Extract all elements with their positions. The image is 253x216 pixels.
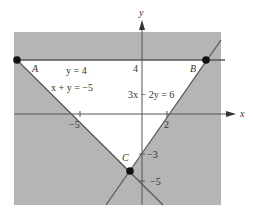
label-3x-minus-2y: 3x − 2y = 6 [128, 89, 174, 100]
point-a [13, 56, 21, 64]
label-y-equals-4: y = 4 [66, 65, 87, 76]
x-axis-arrow-icon [226, 111, 236, 117]
y-tick-label-neg5: −5 [150, 176, 161, 187]
y-axis-arrow-icon [139, 20, 145, 30]
point-c [126, 167, 134, 175]
point-c-label: C [122, 152, 129, 163]
y-tick-label-neg3: −3 [147, 149, 158, 160]
inequality-graph: x y −5 2 4 −3 −5 y = 4 x + y = −5 3x − 2… [0, 0, 253, 216]
y-tick-label-4: 4 [133, 63, 138, 74]
y-axis-label: y [138, 7, 144, 18]
label-x-plus-y: x + y = −5 [51, 82, 93, 93]
point-b-label: B [190, 63, 196, 74]
point-b [202, 56, 210, 64]
point-a-label: A [31, 63, 39, 74]
x-axis-label: x [239, 108, 245, 119]
